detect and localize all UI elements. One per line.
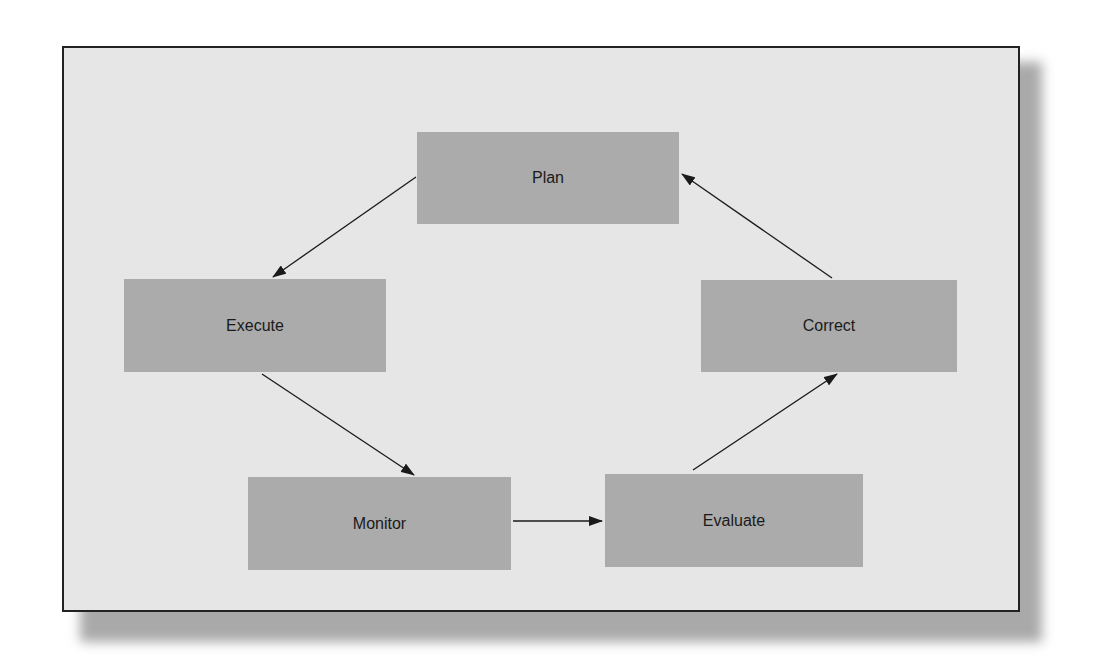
node-monitor: Monitor bbox=[248, 477, 511, 570]
node-label: Plan bbox=[532, 169, 564, 187]
arrow-correct-to-plan bbox=[682, 174, 832, 278]
node-plan: Plan bbox=[417, 132, 679, 224]
node-label: Evaluate bbox=[703, 512, 765, 530]
arrow-plan-to-execute bbox=[273, 177, 416, 277]
node-label: Correct bbox=[803, 317, 855, 335]
node-execute: Execute bbox=[124, 279, 386, 372]
arrow-execute-to-monitor bbox=[262, 374, 414, 475]
node-evaluate: Evaluate bbox=[605, 474, 863, 567]
arrow-evaluate-to-correct bbox=[693, 374, 837, 470]
node-label: Monitor bbox=[353, 515, 406, 533]
node-label: Execute bbox=[226, 317, 284, 335]
node-correct: Correct bbox=[701, 280, 957, 372]
